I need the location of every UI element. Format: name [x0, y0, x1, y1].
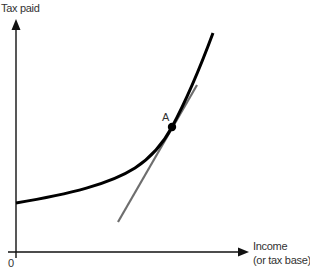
y-axis-label: Tax paid	[1, 2, 40, 15]
point-a-marker	[168, 123, 176, 131]
tax-curve	[16, 33, 213, 203]
x-axis-arrow-icon	[238, 248, 249, 257]
x-axis-label-line1: Income	[253, 240, 287, 253]
diagram-canvas	[0, 0, 310, 277]
point-a-label: A	[162, 111, 169, 124]
origin-label: 0	[8, 257, 14, 270]
tangent-line	[118, 85, 197, 222]
y-axis-arrow-icon	[12, 19, 21, 30]
x-axis-label-line2: (or tax base)	[253, 254, 310, 267]
